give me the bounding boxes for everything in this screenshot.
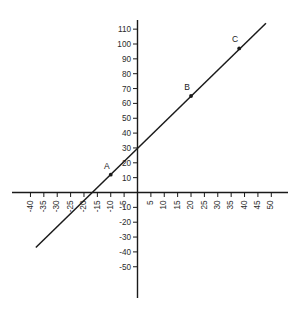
- x-tick-label: -40: [26, 200, 35, 212]
- point-label-c: C: [232, 34, 238, 44]
- y-tick-label: 10: [122, 174, 132, 183]
- y-tick-label: 90: [122, 55, 132, 64]
- y-tick-label: -40: [119, 248, 131, 257]
- point-label-a: A: [104, 161, 110, 171]
- x-tick-label: 40: [240, 200, 249, 210]
- x-tick-label: 5: [146, 200, 155, 205]
- x-axis-tick-labels: -40-35-30-25-20-15-10-551015202530354045…: [26, 200, 276, 212]
- y-tick-label: -50: [119, 263, 131, 272]
- y-tick-label: -10: [119, 203, 131, 212]
- y-axis-tick-labels: -50-40-30-20-10102030405060708090100110: [117, 25, 131, 272]
- point-marker-b: [189, 94, 193, 98]
- y-tick-label: -30: [119, 233, 131, 242]
- y-tick-label: 20: [122, 159, 132, 168]
- y-tick-label: 70: [122, 85, 132, 94]
- x-tick-label: -30: [52, 200, 61, 212]
- point-marker-a: [109, 173, 113, 177]
- x-tick-label: 20: [186, 200, 195, 210]
- data-series-line: [36, 23, 266, 247]
- figure-caption: [0, 302, 296, 318]
- coordinate-plot: -40-35-30-25-20-15-10-551015202530354045…: [0, 0, 296, 318]
- x-tick-label: 45: [253, 200, 262, 210]
- y-tick-label: 100: [117, 40, 131, 49]
- y-tick-label: 80: [122, 70, 132, 79]
- x-tick-label: -20: [79, 200, 88, 212]
- y-tick-label: 40: [122, 129, 132, 138]
- y-tick-label: 30: [122, 144, 132, 153]
- y-tick-label: 50: [122, 114, 132, 123]
- x-tick-label: -15: [93, 200, 102, 212]
- x-tick-label: 25: [200, 200, 209, 210]
- x-tick-label: 50: [266, 200, 275, 210]
- x-tick-label: 15: [173, 200, 182, 210]
- y-tick-label: 110: [118, 25, 131, 34]
- x-tick-label: -35: [39, 200, 48, 212]
- x-tick-label: 30: [213, 200, 222, 210]
- graph-figure: -40-35-30-25-20-15-10-551015202530354045…: [0, 0, 296, 318]
- y-tick-label: -20: [119, 218, 131, 227]
- point-label-b: B: [184, 82, 190, 92]
- x-tick-label: 10: [159, 200, 168, 210]
- point-marker-c: [237, 47, 241, 51]
- y-tick-label: 60: [122, 99, 132, 108]
- x-tick-label: -10: [106, 200, 115, 212]
- x-tick-label: 35: [226, 200, 235, 210]
